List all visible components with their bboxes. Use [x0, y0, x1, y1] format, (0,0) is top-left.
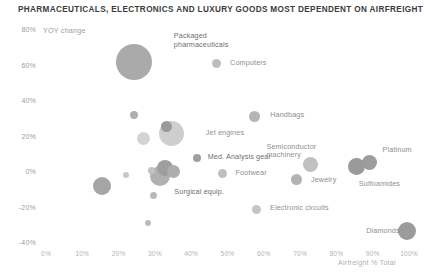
bubble-point[interactable]: [348, 158, 365, 175]
x-axis-tick: 10%: [67, 250, 97, 257]
bubble-point-unlabeled[interactable]: [148, 167, 155, 174]
bubble-point-unlabeled[interactable]: [150, 192, 157, 199]
point-label: Surgical equip.: [174, 188, 224, 197]
plot-area: 80%60%40%20%0%-20%-40% 0%10%20%30%40%50%…: [0, 0, 427, 278]
y-axis-title: YOY change: [43, 26, 86, 35]
y-axis-tick: -40%: [6, 239, 36, 246]
point-label: Diamonds: [366, 227, 400, 236]
bubble-point[interactable]: [212, 59, 221, 68]
point-label: Electronic circuits: [270, 204, 329, 213]
bubble-point-unlabeled[interactable]: [137, 132, 150, 145]
x-axis-title: Airfreight % Total: [338, 258, 396, 267]
point-label: Semiconductor machinery: [266, 143, 316, 160]
x-axis-tick: 30%: [140, 250, 170, 257]
bubble-point-unlabeled[interactable]: [123, 172, 129, 178]
bubble-chart: PHARMACEUTICALS, ELECTRONICS AND LUXURY …: [0, 0, 427, 278]
y-axis-tick: 0%: [6, 168, 36, 175]
x-axis-tick: 50%: [213, 250, 243, 257]
x-axis-tick: 40%: [176, 250, 206, 257]
point-label: Platinum: [383, 146, 412, 155]
point-label: Med. Analysis gear: [208, 153, 271, 162]
bubble-point[interactable]: [116, 44, 152, 80]
point-label: Handbags: [270, 111, 304, 120]
x-axis-tick: 60%: [249, 250, 279, 257]
x-axis-tick: 90%: [358, 250, 388, 257]
point-label: Computers: [230, 59, 267, 68]
x-axis-tick: 70%: [285, 250, 315, 257]
y-axis-tick: 20%: [6, 133, 36, 140]
point-label: Sulfoamides: [359, 180, 400, 189]
y-axis-tick: -20%: [6, 204, 36, 211]
bubble-point[interactable]: [398, 222, 416, 240]
y-axis-tick: 40%: [6, 97, 36, 104]
bubble-point-unlabeled[interactable]: [93, 177, 111, 195]
bubble-point[interactable]: [252, 205, 261, 214]
x-axis-tick: 0%: [31, 250, 61, 257]
bubble-point-unlabeled[interactable]: [167, 165, 180, 178]
x-axis-tick: 80%: [321, 250, 351, 257]
point-label: Jewelry: [311, 176, 336, 185]
point-label: Footwear: [236, 169, 267, 178]
x-axis-tick: 100%: [394, 250, 424, 257]
bubble-point[interactable]: [291, 174, 302, 185]
bubble-point[interactable]: [249, 111, 260, 122]
bubble-point-unlabeled[interactable]: [130, 111, 138, 119]
bubble-point-unlabeled[interactable]: [145, 220, 151, 226]
y-axis-tick: 60%: [6, 62, 36, 69]
point-label: Jet engines: [206, 129, 244, 138]
point-label: Packaged pharmaceuticals: [174, 32, 229, 49]
bubble-point[interactable]: [193, 154, 201, 162]
bubble-point[interactable]: [218, 169, 227, 178]
y-axis-tick: 80%: [6, 26, 36, 33]
x-axis-tick: 20%: [104, 250, 134, 257]
